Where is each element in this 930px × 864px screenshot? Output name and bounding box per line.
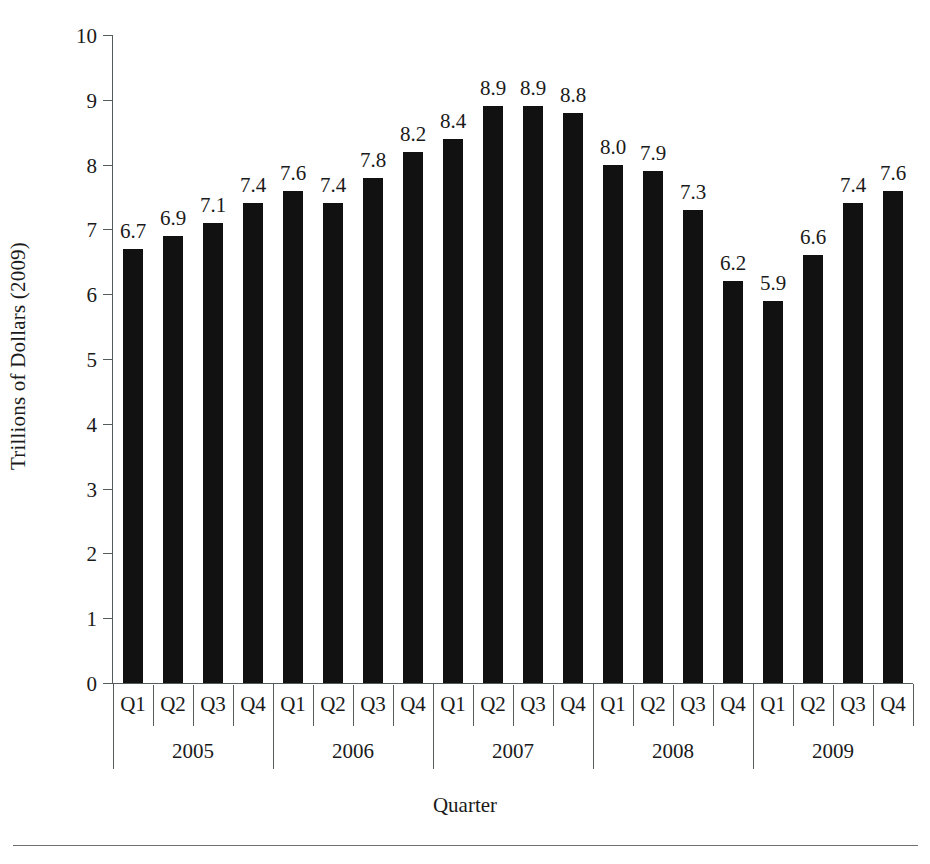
quarter-divider [873, 685, 874, 726]
bar-slot[interactable]: 8.9 [513, 35, 553, 683]
bar-slot[interactable]: 7.6 [873, 35, 913, 683]
bar[interactable] [763, 301, 783, 683]
bar-slot[interactable]: 5.9 [753, 35, 793, 683]
bar-value-label: 6.6 [788, 227, 838, 248]
quarter-label-cell: Q3 [193, 684, 233, 726]
year-divider [273, 684, 274, 769]
bar-value-label: 7.3 [668, 182, 718, 203]
y-axis-tick [103, 165, 113, 166]
bar-value-label: 7.6 [868, 163, 918, 184]
bar[interactable] [603, 165, 623, 683]
x-axis-label-table: Q1Q2Q3Q4Q1Q2Q3Q4Q1Q2Q3Q4Q1Q2Q3Q4Q1Q2Q3Q4… [113, 684, 913, 769]
quarter-label-cell: Q1 [273, 684, 313, 726]
quarter-divider [713, 685, 714, 726]
quarter-divider [313, 685, 314, 726]
quarter-divider [353, 685, 354, 726]
bar[interactable] [483, 106, 503, 683]
y-axis-title: Trillions of Dollars (2009) [6, 196, 36, 516]
y-axis-tick [103, 294, 113, 295]
bar-slot[interactable]: 7.4 [313, 35, 353, 683]
x-axis-title: Quarter [0, 793, 930, 818]
bar-slot[interactable]: 6.2 [713, 35, 753, 683]
quarter-divider [833, 685, 834, 726]
quarter-divider [393, 685, 394, 726]
bar-value-label: 8.8 [548, 85, 598, 106]
y-axis-tick [103, 553, 113, 554]
quarter-label-cell: Q1 [593, 684, 633, 726]
y-axis-tick [103, 359, 113, 360]
y-axis-tick-label: 1 [35, 618, 97, 619]
year-divider [593, 684, 594, 769]
y-axis-tick [103, 424, 113, 425]
plot-area: 6.76.97.17.47.67.47.88.28.48.98.98.88.07… [113, 35, 913, 683]
year-divider [433, 684, 434, 769]
quarter-divider [473, 685, 474, 726]
quarter-label-cell: Q2 [153, 684, 193, 726]
bar-slot[interactable]: 7.4 [233, 35, 273, 683]
bar-value-label: 5.9 [748, 273, 798, 294]
bar-slot[interactable]: 7.8 [353, 35, 393, 683]
bar[interactable] [843, 203, 863, 683]
y-axis-tick-label: 7 [35, 229, 97, 230]
y-axis-tick [103, 100, 113, 101]
bar[interactable] [683, 210, 703, 683]
bar-slot[interactable]: 7.4 [833, 35, 873, 683]
bar-slot[interactable]: 6.7 [113, 35, 153, 683]
bar-slot[interactable]: 8.4 [433, 35, 473, 683]
bar-slot[interactable]: 6.6 [793, 35, 833, 683]
bar[interactable] [563, 113, 583, 683]
year-divider [113, 684, 114, 769]
y-axis-tick-label: 8 [35, 165, 97, 166]
y-axis-tick-label: 5 [35, 359, 97, 360]
bar-slot[interactable]: 7.9 [633, 35, 673, 683]
bar[interactable] [283, 191, 303, 683]
quarter-label-cell: Q3 [833, 684, 873, 726]
bar-slot[interactable]: 7.3 [673, 35, 713, 683]
bar[interactable] [883, 191, 903, 683]
quarter-label-cell: Q4 [233, 684, 273, 726]
y-axis-tick-label: 9 [35, 100, 97, 101]
quarter-label-cell: Q3 [673, 684, 713, 726]
bar[interactable] [363, 178, 383, 683]
year-label-cell: 2007 [433, 726, 593, 769]
quarter-label-cell: Q4 [713, 684, 753, 726]
y-axis-tick-label: 6 [35, 294, 97, 295]
bar[interactable] [523, 106, 543, 683]
y-axis-tick-label: 0 [35, 683, 97, 684]
bar[interactable] [203, 223, 223, 683]
y-axis-tick [103, 618, 113, 619]
quarter-divider [633, 685, 634, 726]
bar-slot[interactable]: 8.2 [393, 35, 433, 683]
bar-slot[interactable]: 8.8 [553, 35, 593, 683]
y-axis-tick-label: 4 [35, 424, 97, 425]
bar[interactable] [323, 203, 343, 683]
bar[interactable] [723, 281, 743, 683]
bar[interactable] [643, 171, 663, 683]
quarter-label-cell: Q2 [633, 684, 673, 726]
bar[interactable] [123, 249, 143, 683]
year-label-cell: 2006 [273, 726, 433, 769]
y-axis-tick [103, 489, 113, 490]
quarter-label-cell: Q1 [433, 684, 473, 726]
quarter-label-cell: Q4 [873, 684, 913, 726]
quarter-divider [233, 685, 234, 726]
y-axis-tick-label: 10 [35, 35, 97, 36]
year-label-row: 20052006200720082009 [113, 726, 913, 769]
bottom-divider [13, 845, 918, 846]
bar[interactable] [243, 203, 263, 683]
year-label-cell: 2008 [593, 726, 753, 769]
bar-value-label: 7.8 [348, 150, 398, 171]
bar[interactable] [443, 139, 463, 683]
bar-slot[interactable]: 8.9 [473, 35, 513, 683]
bar-value-label: 7.1 [188, 195, 238, 216]
bar-slot[interactable]: 7.6 [273, 35, 313, 683]
bar-slot[interactable]: 6.9 [153, 35, 193, 683]
bar[interactable] [403, 152, 423, 683]
quarter-label-cell: Q4 [553, 684, 593, 726]
bar[interactable] [163, 236, 183, 683]
bar-slot[interactable]: 8.0 [593, 35, 633, 683]
bar[interactable] [803, 255, 823, 683]
bar-value-label: 7.9 [628, 143, 678, 164]
bar-value-label: 8.4 [428, 111, 478, 132]
bar-slot[interactable]: 7.1 [193, 35, 233, 683]
